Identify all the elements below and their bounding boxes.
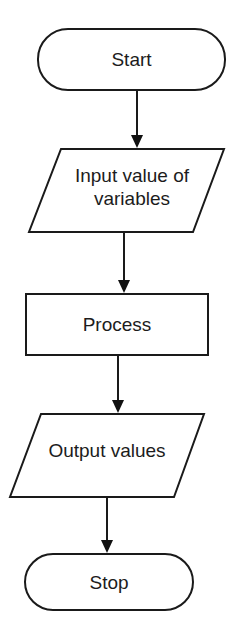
process-node-label: Process xyxy=(26,313,208,336)
stop-node-label: Stop xyxy=(25,571,193,594)
edge-process-to-output xyxy=(112,355,124,413)
edge-output-to-stop xyxy=(101,497,113,553)
input-node-label-line1: Input value of xyxy=(50,164,214,187)
arrowhead-icon xyxy=(131,135,143,148)
edge-start-to-input xyxy=(131,90,143,148)
edge-input-to-process xyxy=(118,232,130,293)
output-node-label: Output values xyxy=(22,439,192,462)
input-node-label: Input value of variables xyxy=(50,164,214,210)
arrowhead-icon xyxy=(118,280,130,293)
arrowhead-icon xyxy=(112,400,124,413)
start-node-label: Start xyxy=(38,48,225,71)
arrowhead-icon xyxy=(101,540,113,553)
input-node-label-line2: variables xyxy=(50,187,214,210)
